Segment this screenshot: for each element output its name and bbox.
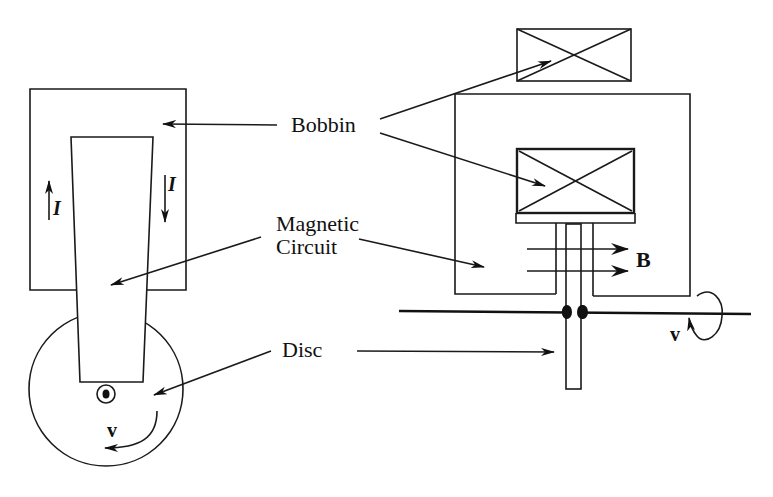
symbol-velocity-right: v <box>670 323 680 346</box>
shaft-symbol-dot <box>103 390 110 399</box>
leader-disc-right <box>357 351 554 352</box>
label-bobbin: Bobbin <box>291 114 356 136</box>
leader-bobbin-left <box>163 124 277 125</box>
right-view <box>399 29 751 389</box>
label-disc: Disc <box>282 339 322 361</box>
symbol-current-left: I <box>53 197 61 220</box>
magnetic-circuit-core <box>71 137 153 382</box>
left-view <box>29 89 186 466</box>
symbol-velocity-left: v <box>107 419 117 442</box>
pole-piece <box>516 213 635 223</box>
diagram-canvas: Bobbin Magnetic Circuit Disc I I B v v <box>0 0 773 497</box>
leader-bobbin-inner <box>380 133 545 186</box>
label-magnetic-circuit-line2: Circuit <box>276 236 337 258</box>
leader-disc-left <box>154 351 271 395</box>
label-magnetic-circuit-line1: Magnetic <box>276 213 359 235</box>
leader-bobbin-top <box>380 61 551 119</box>
symbol-current-right: I <box>168 173 176 196</box>
rotation-arrow-right <box>689 292 722 340</box>
leader-magnetic-right <box>359 239 484 267</box>
symbol-field-b: B <box>636 247 651 273</box>
